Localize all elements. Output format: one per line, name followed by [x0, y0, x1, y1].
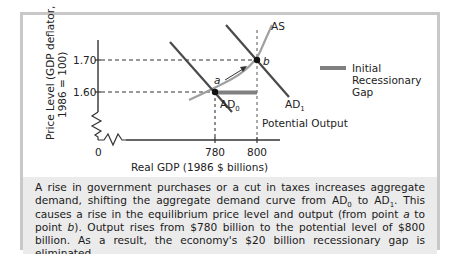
x-tick-0: 0	[95, 146, 102, 158]
legend-line3: Gap	[352, 86, 374, 98]
figure-caption: A rise in government purchases or a cut …	[23, 177, 437, 254]
y-axis-break-icon	[92, 112, 101, 140]
legend-line1: Initial	[352, 62, 381, 74]
y-axis-label-line2: 1986 = 100)	[56, 52, 68, 118]
point-b	[254, 57, 260, 63]
point-a	[212, 89, 218, 95]
as-label: AS	[271, 20, 285, 32]
y-tick-170: 1.70	[73, 54, 96, 66]
x-tick-800: 800	[247, 146, 267, 158]
y-axis-label-line1: Price Level (GDP deflator,	[44, 6, 56, 140]
x-axis-label: Real GDP (1986 $ billions)	[131, 161, 268, 173]
x-tick-780: 780	[205, 146, 225, 158]
potential-output-label: Potential Output	[262, 117, 348, 129]
ad1-label: AD1	[285, 98, 305, 113]
y-tick-160: 1.60	[73, 86, 96, 98]
point-b-label: b	[263, 55, 270, 67]
x-axis-break-icon	[98, 134, 126, 145]
legend-line2: Recessionary	[352, 74, 421, 86]
point-a-label: a	[214, 74, 220, 86]
ad-as-chart: Price Level (GDP deflator, 1986 = 100) 1…	[0, 0, 459, 178]
